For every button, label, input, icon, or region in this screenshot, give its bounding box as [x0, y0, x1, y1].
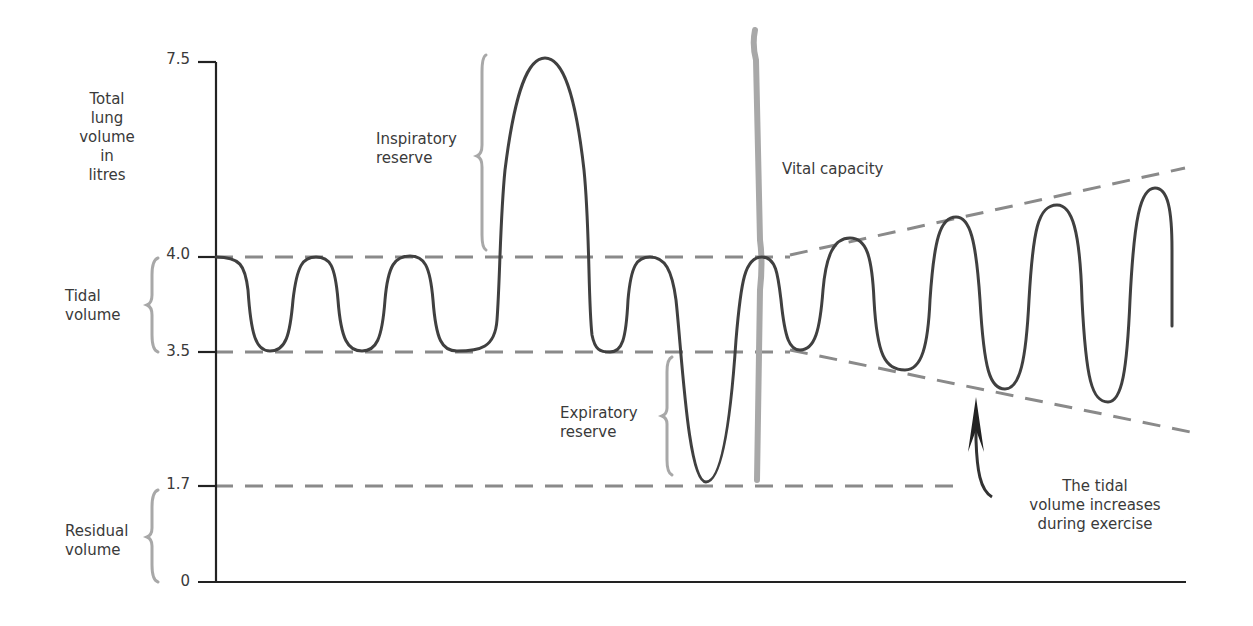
tick-label-7-5: 7.5	[150, 50, 190, 68]
inspiratory-reserve-label: Inspiratory reserve	[376, 130, 457, 168]
expiratory-reserve-label: Expiratory reserve	[560, 404, 638, 442]
expiratory-reserve-label-line: reserve	[560, 423, 638, 442]
tidal-volume-label-line: Tidal	[65, 287, 121, 306]
residual-volume-label-line: volume	[65, 541, 128, 560]
vital-capacity-bar	[754, 30, 762, 480]
tidal-volume-brace	[147, 258, 158, 352]
residual-volume-brace	[147, 490, 158, 582]
exercise-arrow	[968, 397, 992, 497]
tick-label-4-0: 4.0	[150, 245, 190, 263]
breathing-trace	[216, 58, 1172, 482]
y-axis-title-line: litres	[62, 166, 152, 185]
expiratory-reserve-label-line: Expiratory	[560, 404, 638, 423]
expiratory-reserve-brace	[662, 357, 672, 475]
tick-label-1-7: 1.7	[150, 475, 190, 493]
inspiratory-reserve-label-line: reserve	[376, 149, 457, 168]
tidal-volume-label: Tidal volume	[65, 287, 121, 325]
residual-volume-label-line: Residual	[65, 522, 128, 541]
reference-lines	[215, 168, 1200, 486]
exercise-note-line: The tidal	[1010, 477, 1180, 496]
residual-volume-label: Residual volume	[65, 522, 128, 560]
vital-capacity-label: Vital capacity	[782, 160, 883, 179]
y-axis-title-line: Total	[62, 90, 152, 109]
exercise-note: The tidal volume increases during exerci…	[1010, 477, 1180, 534]
exercise-upper-envelope	[790, 168, 1185, 255]
inspiratory-reserve-label-line: Inspiratory	[376, 130, 457, 149]
y-axis-title-line: volume	[62, 128, 152, 147]
inspiratory-reserve-brace	[477, 55, 486, 250]
exercise-note-line: during exercise	[1010, 515, 1180, 534]
exercise-lower-envelope	[790, 350, 1200, 434]
tick-label-0: 0	[150, 572, 190, 590]
tick-label-3-5: 3.5	[150, 342, 190, 360]
y-axis-title: Total lung volume in litres	[62, 90, 152, 185]
y-axis-title-line: lung	[62, 109, 152, 128]
tidal-volume-label-line: volume	[65, 306, 121, 325]
y-axis-title-line: in	[62, 147, 152, 166]
exercise-note-line: volume increases	[1010, 496, 1180, 515]
